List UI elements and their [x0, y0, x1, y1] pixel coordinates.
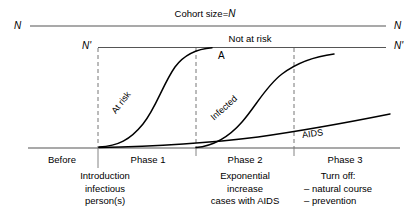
annotation-introduction-line-3: person(s) [80, 195, 130, 208]
axis-label-n-prime-right: N' [394, 40, 403, 51]
annotation-turn-off: Turn off: – natural course – prevention [304, 170, 372, 208]
annotation-exponential: Exponential increase cases with AIDS [211, 170, 280, 208]
phase-label-phase-1: Phase 1 [131, 154, 166, 165]
cohort-size-title: Cohort size=N [175, 8, 236, 19]
phase-label-phase-2: Phase 2 [228, 154, 263, 165]
annotation-introduction-line-2: infectious [80, 183, 130, 196]
annotation-introduction-line-1: Introduction [80, 170, 130, 183]
phase-label-before: Before [48, 154, 76, 165]
annotation-introduction: Introduction infectious person(s) [80, 170, 130, 208]
annotation-exponential-line-3: cases with AIDS [211, 195, 280, 208]
axis-label-n-prime-left: N' [82, 40, 91, 51]
annotation-turn-off-line-3: – prevention [304, 195, 372, 208]
point-label-a: A [218, 50, 225, 61]
epidemic-phases-diagram: Cohort size=N N N Not at risk N' N' A At… [0, 0, 415, 211]
cohort-size-symbol: N [228, 8, 235, 19]
cohort-size-text: Cohort size= [175, 8, 229, 19]
curve-at-risk [99, 48, 212, 147]
annotation-turn-off-line-2: – natural course [304, 183, 372, 196]
annotation-exponential-line-2: increase [211, 183, 280, 196]
axis-label-n-right: N [394, 20, 401, 31]
annotation-turn-off-line-1: Turn off: [304, 170, 372, 183]
phase-label-phase-3: Phase 3 [328, 154, 363, 165]
axis-label-n-left: N [14, 20, 21, 31]
annotation-exponential-line-1: Exponential [211, 170, 280, 183]
not-at-risk-label: Not at risk [229, 33, 272, 44]
